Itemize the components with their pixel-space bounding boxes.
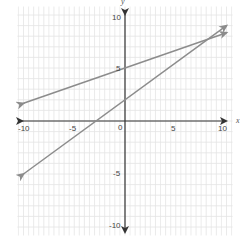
x-tick-label: -5 (69, 124, 77, 133)
x-axis-label: x (235, 116, 240, 125)
y-axis-label: y (120, 0, 125, 6)
x-tick-label: 5 (171, 124, 176, 133)
x-tick-label: 0 (118, 123, 123, 132)
y-tick-label: 5 (116, 64, 121, 73)
y-tick-label: 10 (112, 13, 121, 22)
y-tick-label: -5 (113, 169, 121, 178)
y-tick-label: -10 (109, 221, 121, 230)
x-tick-label: 10 (218, 124, 227, 133)
x-tick-label: -10 (18, 124, 30, 133)
coordinate-plane: -10 -5 0 5 10 10 5 -5 -10 x y (0, 0, 246, 243)
